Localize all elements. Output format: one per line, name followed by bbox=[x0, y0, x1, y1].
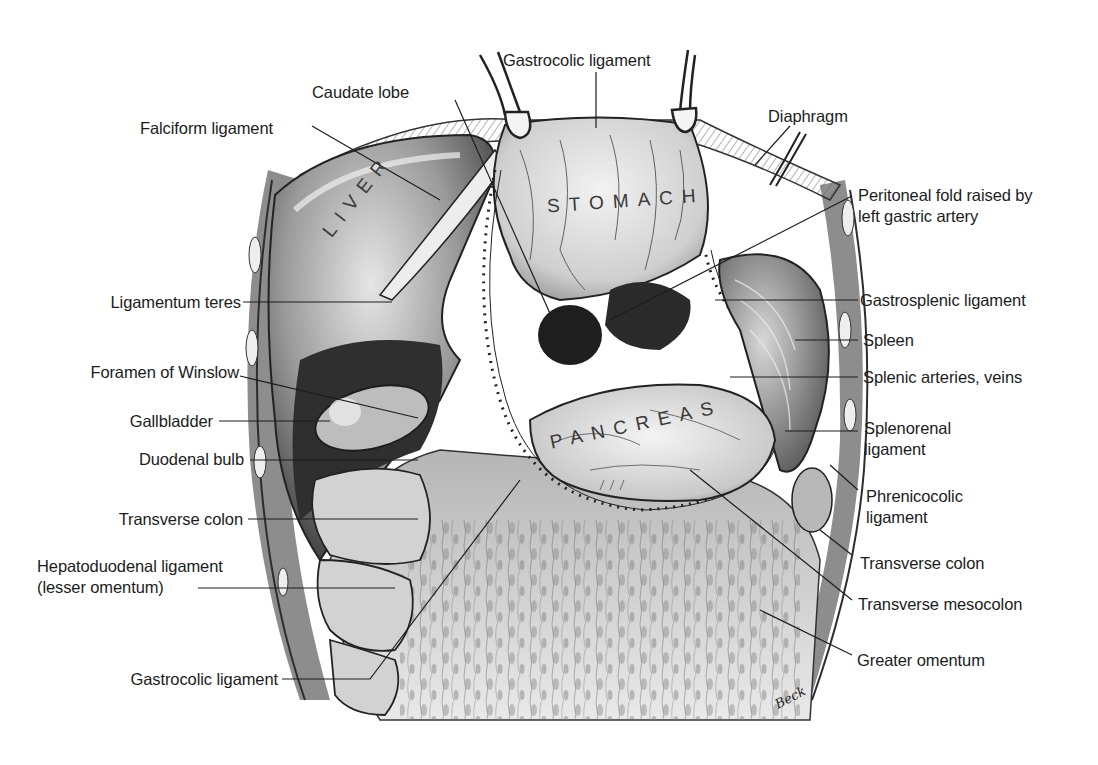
label-phrenicocolic-ligament: Phrenicocolic ligament bbox=[866, 486, 963, 528]
label-gastrocolic-ligament-bottom: Gastrocolic ligament bbox=[0, 669, 278, 690]
label-peritoneal-fold: Peritoneal fold raised by left gastric a… bbox=[858, 185, 1033, 227]
label-gallbladder: Gallbladder bbox=[0, 411, 213, 432]
label-hepatoduodenal-ligament: Hepatoduodenal ligament (lesser omentum) bbox=[37, 556, 223, 598]
label-splenic-arteries-veins: Splenic arteries, veins bbox=[863, 367, 1022, 388]
label-gastrosplenic-ligament: Gastrosplenic ligament bbox=[860, 290, 1026, 311]
retractor-right bbox=[672, 50, 696, 132]
label-caudate-lobe: Caudate lobe bbox=[312, 82, 409, 103]
label-splenorenal-line1: Splenorenal bbox=[864, 418, 951, 439]
label-phrenicocolic-line1: Phrenicocolic bbox=[866, 486, 963, 507]
label-spleen: Spleen bbox=[863, 330, 914, 351]
label-splenorenal-ligament: Splenorenal ligament bbox=[864, 418, 951, 460]
label-greater-omentum: Greater omentum bbox=[857, 650, 985, 671]
label-diaphragm: Diaphragm bbox=[768, 106, 848, 127]
label-foramen-of-winslow: Foramen of Winslow bbox=[0, 362, 239, 383]
label-gastrocolic-ligament-top: Gastrocolic ligament bbox=[503, 50, 650, 71]
splenic-flexure-shape bbox=[792, 468, 832, 532]
label-transverse-colon-left: Transverse colon bbox=[0, 509, 243, 530]
label-transverse-mesocolon: Transverse mesocolon bbox=[858, 594, 1022, 615]
label-ligamentum-teres: Ligamentum teres bbox=[0, 292, 241, 313]
label-falciform-ligament: Falciform ligament bbox=[140, 118, 273, 139]
lesser-sac-opening-left bbox=[538, 305, 602, 365]
label-peritoneal-fold-line1: Peritoneal fold raised by bbox=[858, 185, 1033, 206]
label-hepatoduodenal-line2: (lesser omentum) bbox=[37, 577, 223, 598]
label-duodenal-bulb: Duodenal bulb bbox=[0, 449, 244, 470]
label-peritoneal-fold-line2: left gastric artery bbox=[858, 206, 1033, 227]
label-phrenicocolic-line2: ligament bbox=[866, 507, 963, 528]
label-splenorenal-line2: ligament bbox=[864, 439, 951, 460]
anatomy-figure: LIVER STOMACH PANCREAS Beck Gastrocolic … bbox=[0, 0, 1098, 765]
label-hepatoduodenal-line1: Hepatoduodenal ligament bbox=[37, 556, 223, 577]
label-transverse-colon-right: Transverse colon bbox=[860, 553, 984, 574]
